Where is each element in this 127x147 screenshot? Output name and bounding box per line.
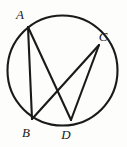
- geometry-canvas: A C B D: [0, 0, 127, 147]
- chord-c-d: [71, 45, 99, 120]
- vertex-label-a: A: [15, 7, 24, 22]
- vertex-label-d: D: [60, 127, 71, 142]
- geometry-figure: A C B D: [0, 0, 127, 147]
- vertex-label-b: B: [22, 125, 30, 140]
- chord-a-b: [28, 27, 32, 119]
- vertex-label-c: C: [99, 29, 108, 44]
- chord-a-d: [28, 27, 71, 120]
